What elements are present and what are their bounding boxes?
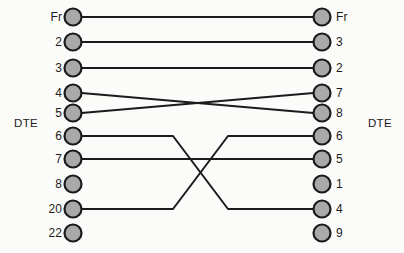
pin-label-left-4: 4	[55, 87, 62, 99]
pin-label-right-4: 4	[336, 203, 343, 215]
pin-label-left-6: 6	[55, 130, 62, 142]
connector-right-pin-3[interactable]	[314, 34, 331, 51]
pin-label-left-22: 22	[48, 227, 62, 239]
connector-left-pin-8[interactable]	[65, 176, 82, 193]
pin-label-right-1: 1	[336, 178, 343, 190]
connector-right-pin-8[interactable]	[314, 105, 331, 122]
connector-right-pin-1[interactable]	[314, 176, 331, 193]
connector-left-pin-6[interactable]	[65, 128, 82, 145]
connector-left-pin-Fr[interactable]	[65, 9, 82, 26]
pin-label-left-5: 5	[55, 107, 62, 119]
pin-label-right-9: 9	[336, 227, 343, 239]
connector-left-pin-20[interactable]	[65, 201, 82, 218]
pin-label-right-6: 6	[336, 130, 343, 142]
wiring-diagram: Fr23456782022Fr327865149 DTE DTE	[0, 0, 404, 253]
pin-label-right-8: 8	[336, 107, 343, 119]
pin-label-left-8: 8	[55, 178, 62, 190]
connector-left-pin-7[interactable]	[65, 151, 82, 168]
connector-left-pin-5[interactable]	[65, 105, 82, 122]
side-label-right-dte: DTE	[368, 118, 392, 130]
connector-right-pin-6[interactable]	[314, 128, 331, 145]
pin-label-left-3: 3	[55, 62, 62, 74]
pin-label-left-7: 7	[55, 153, 62, 165]
connector-right-pin-4[interactable]	[314, 201, 331, 218]
connector-left-pin-22[interactable]	[65, 225, 82, 242]
pin-label-right-Fr: Fr	[336, 11, 348, 23]
wire-6-to-4	[82, 136, 314, 209]
connector-left-pin-3[interactable]	[65, 60, 82, 77]
pin-label-right-2: 2	[336, 62, 343, 74]
pin-label-left-20: 20	[48, 203, 62, 215]
connector-left-pin-4[interactable]	[65, 85, 82, 102]
pin-label-left-2: 2	[55, 36, 62, 48]
connector-right-pin-5[interactable]	[314, 151, 331, 168]
connector-layer	[65, 9, 331, 242]
connector-left-pin-2[interactable]	[65, 34, 82, 51]
connector-right-pin-2[interactable]	[314, 60, 331, 77]
side-label-left-dte: DTE	[14, 118, 38, 130]
connector-right-pin-Fr[interactable]	[314, 9, 331, 26]
pin-label-right-5: 5	[336, 153, 343, 165]
wire-20-to-6	[82, 136, 314, 209]
pin-label-left-Fr: Fr	[50, 11, 62, 23]
connector-right-pin-7[interactable]	[314, 85, 331, 102]
pin-label-right-3: 3	[336, 36, 343, 48]
wire-layer	[82, 17, 314, 209]
connector-right-pin-9[interactable]	[314, 225, 331, 242]
pin-label-right-7: 7	[336, 87, 343, 99]
